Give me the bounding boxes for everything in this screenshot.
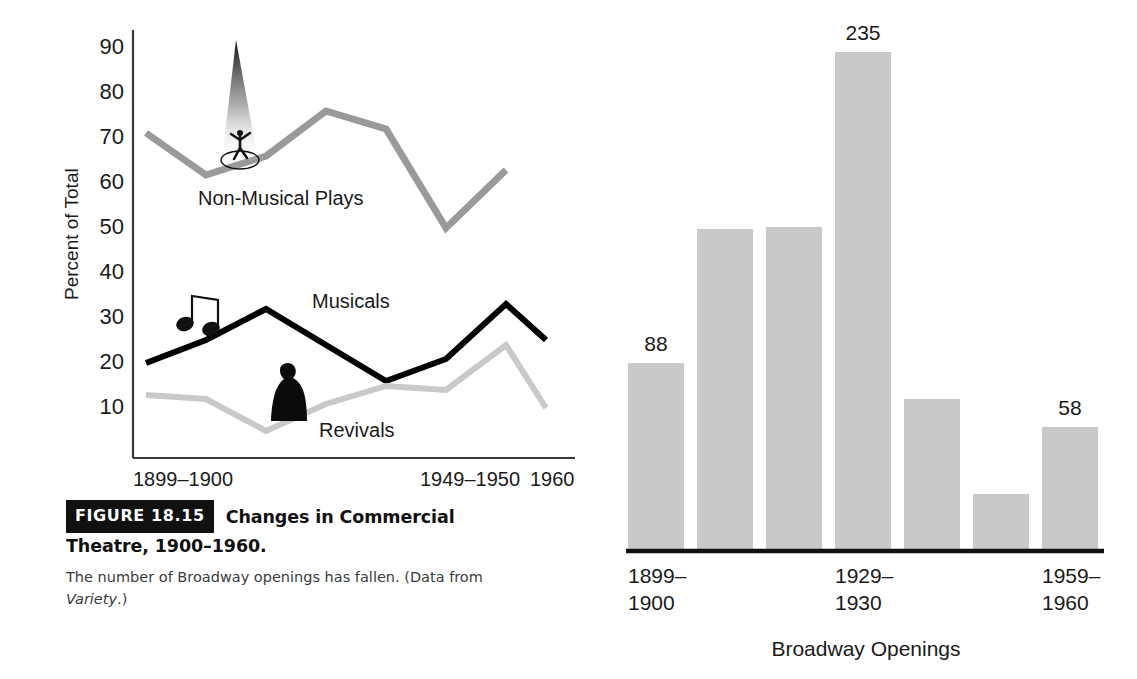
music-note-icon <box>174 296 221 338</box>
bar-1919-1920 <box>766 227 822 549</box>
bar-chart-x-axis-title: Broadway Openings <box>771 637 960 660</box>
bar-1959-1960 <box>1042 427 1098 549</box>
y-tick-50: 50 <box>100 214 124 239</box>
line-chart-panel: 90 80 70 60 50 40 30 20 10 Percent of To… <box>0 0 610 500</box>
bar-value-label-235: 235 <box>845 21 880 44</box>
bar-value-label-88: 88 <box>644 332 667 355</box>
bar-tick-1929-line1: 1929– <box>835 564 894 587</box>
x-tick-1949-1950: 1949–1950 <box>420 468 520 490</box>
figure-number-badge: FIGURE 18.15 <box>66 500 214 533</box>
annotation-musicals: Musicals <box>312 290 390 312</box>
bar-1949-1950 <box>973 494 1029 549</box>
figure-title-line1: Changes in Commercial <box>226 507 455 527</box>
caption-source-lead: from <box>449 569 483 585</box>
y-tick-60: 60 <box>100 169 124 194</box>
caption-sentence: The number of Broadway openings has fall… <box>66 569 445 585</box>
y-tick-80: 80 <box>100 79 124 104</box>
annotation-revivals: Revivals <box>319 419 395 441</box>
bar-chart-panel: 88 235 58 1899– 1900 1929– 1930 1959– 19… <box>608 0 1137 679</box>
bar-1939-1940 <box>904 399 960 549</box>
figure-caption-body: The number of Broadway openings has fall… <box>66 566 536 610</box>
y-tick-40: 40 <box>100 259 124 284</box>
line-chart-svg: 90 80 70 60 50 40 30 20 10 Percent of To… <box>0 0 610 500</box>
figure-caption: FIGURE 18.15Changes in Commercial Theatr… <box>66 500 536 610</box>
bar-tick-1899-line1: 1899– <box>628 564 687 587</box>
spotlight-icon <box>221 40 259 169</box>
bar-chart-svg: 88 235 58 1899– 1900 1929– 1930 1959– 19… <box>608 0 1137 679</box>
bar-tick-1899-line2: 1900 <box>628 591 675 614</box>
bar-1909-1910 <box>697 229 753 549</box>
bar-1899-1900 <box>628 363 684 549</box>
x-tick-1960: 1960 <box>530 468 575 490</box>
bar-value-label-58: 58 <box>1058 396 1081 419</box>
caption-source-tail: .) <box>117 591 127 607</box>
bar-1929-1930 <box>835 52 891 549</box>
figure-18-15: 90 80 70 60 50 40 30 20 10 Percent of To… <box>0 0 1137 679</box>
actor-silhouette-icon <box>271 363 307 421</box>
series-musicals <box>146 304 546 381</box>
y-tick-20: 20 <box>100 349 124 374</box>
figure-caption-title: FIGURE 18.15Changes in Commercial Theatr… <box>66 500 536 559</box>
y-axis-title: Percent of Total <box>61 168 82 300</box>
bar-tick-1929-line2: 1930 <box>835 591 882 614</box>
y-tick-90: 90 <box>100 34 124 59</box>
y-tick-10: 10 <box>100 394 124 419</box>
figure-title-line2: Theatre, 1900–1960. <box>66 533 536 559</box>
caption-source-name: Variety <box>66 591 117 607</box>
y-tick-70: 70 <box>100 124 124 149</box>
y-tick-30: 30 <box>100 304 124 329</box>
x-tick-1899-1900: 1899–1900 <box>133 468 233 490</box>
bar-tick-1959-line2: 1960 <box>1042 591 1089 614</box>
series-non-musical-plays <box>146 111 506 228</box>
bar-tick-1959-line1: 1959– <box>1042 564 1101 587</box>
annotation-non-musical-plays: Non-Musical Plays <box>198 187 364 209</box>
